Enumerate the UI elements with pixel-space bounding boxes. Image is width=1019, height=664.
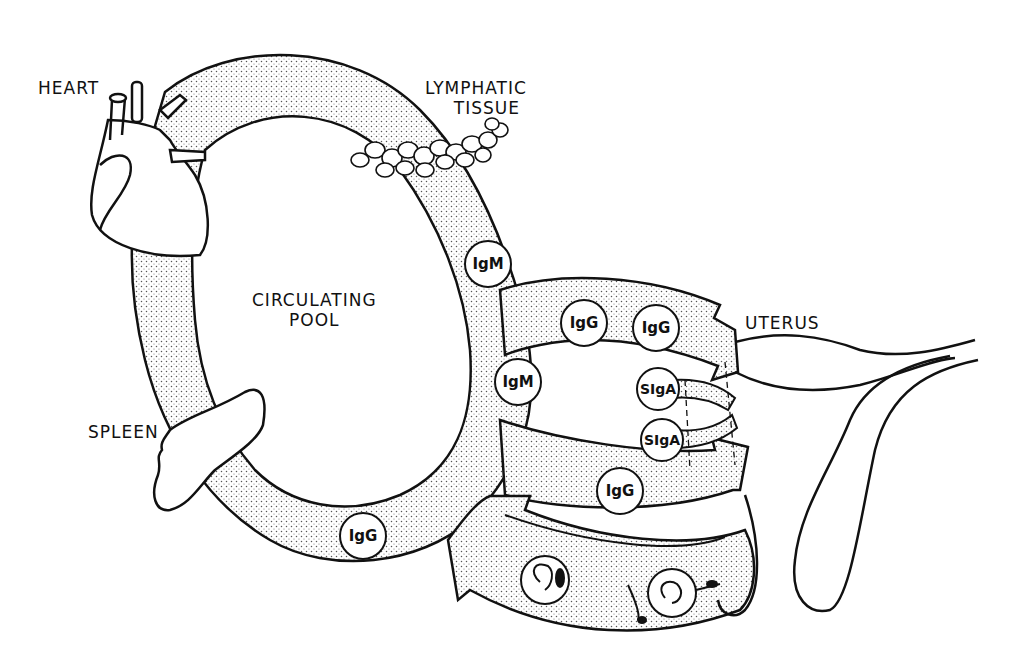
- uterus-illustration: [718, 335, 978, 615]
- label-circulating-pool: CIRCULATING POOL: [252, 290, 377, 331]
- label-lymphatic-line1: LYMPHATIC: [425, 78, 527, 98]
- antibody-igg-ring-bottom: IgG: [339, 512, 387, 560]
- label-uterus: UTERUS: [745, 313, 820, 333]
- antibody-igg-upper-left: IgG: [560, 299, 608, 347]
- label-lymphatic-tissue: LYMPHATIC TISSUE: [425, 78, 527, 119]
- antibody-igg-lower: IgG: [596, 467, 644, 515]
- label-heart: HEART: [38, 78, 99, 98]
- label-spleen: SPLEEN: [88, 422, 159, 442]
- antibody-siga-upper: SIgA: [636, 367, 680, 411]
- upper-branch-arrow: [500, 278, 738, 380]
- label-circulating-line2: POOL: [252, 310, 377, 330]
- antibody-igm-middle: IgM: [494, 358, 542, 406]
- antibody-igg-upper-right: IgG: [632, 304, 680, 352]
- label-circulating-line1: CIRCULATING: [252, 290, 377, 310]
- return-arrow: [448, 496, 754, 630]
- antibody-igm-upper: IgM: [464, 240, 512, 288]
- antibody-siga-lower: SIgA: [640, 418, 684, 462]
- label-lymphatic-line2: TISSUE: [425, 98, 527, 118]
